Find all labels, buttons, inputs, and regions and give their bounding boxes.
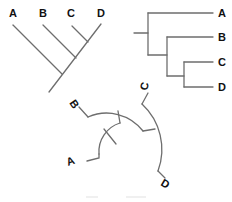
branch-b — [43, 25, 76, 58]
faint-caption — [86, 196, 146, 198]
slanted-label-c: C — [67, 7, 75, 19]
branch-a-connector — [87, 154, 99, 161]
slanted-label-a: A — [9, 7, 17, 19]
inner-arc — [99, 123, 120, 154]
circular-tree: A B C D — [65, 81, 172, 191]
circular-label-a: A — [65, 154, 77, 168]
circular-label-d: D — [159, 176, 172, 190]
rect-label-b: B — [218, 31, 226, 43]
rectangular-tree: A B C D — [134, 7, 226, 93]
slanted-label-d: D — [97, 7, 105, 19]
outer-arc — [142, 104, 162, 171]
branch-b-connector — [79, 107, 88, 117]
branch-c — [72, 26, 88, 42]
circular-label-b: B — [67, 97, 81, 110]
rect-label-a: A — [218, 7, 226, 19]
radial-middle-to-outer — [143, 129, 155, 131]
middle-arc — [88, 113, 143, 131]
branch-a — [13, 25, 62, 74]
branch-root-to-d — [49, 24, 101, 92]
radial-inner-to-middle — [118, 111, 120, 123]
slanted-cladogram: A B C D — [9, 7, 105, 92]
circular-label-c: C — [137, 81, 151, 92]
phylogenetic-tree-figure: A B C D A B C D — [0, 0, 232, 202]
branch-c-connector — [142, 93, 148, 104]
circular-root-tick — [104, 129, 116, 144]
rect-label-c: C — [218, 56, 226, 68]
rect-label-d: D — [218, 81, 226, 93]
slanted-label-b: B — [39, 7, 47, 19]
